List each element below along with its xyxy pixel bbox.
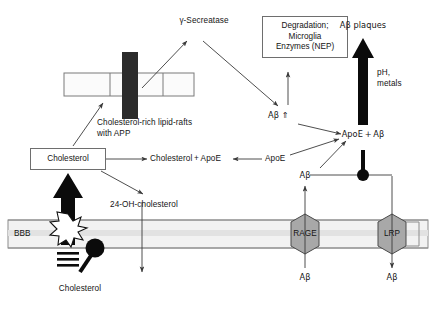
arrow-apoe-to-apoe-abeta [290,139,339,155]
oh-cholesterol-label: 24-OH-cholesterol [110,200,178,211]
cholesterol-bottom-label: Cholesterol [40,284,120,295]
cholesterol-box: Cholesterol [30,148,106,170]
app-bar [122,52,138,119]
degradation-line3: Enzymes (NEP) [276,42,334,53]
apoe-label: ApoE [265,154,285,165]
rage-label: RAGE [283,229,327,240]
abeta-below-lrp-label: Aβ [373,272,411,283]
ph-label: pH, [377,68,390,79]
metals-label: metals [377,79,402,90]
abeta-below-rage-label: Aβ [286,272,324,283]
arrow-membrane-abeta-to-apoe-abeta [320,141,346,168]
cholesterol-apoe-label: Cholesterol + ApoE [150,154,221,165]
abeta-above-rage-label: Aβ [286,170,324,181]
lrp-label: LRP [370,229,414,240]
bbb-label: BBB [14,229,31,240]
apoe-abeta-label: ApoE + Aβ [327,129,399,140]
degradation-line2: Microglia [289,32,322,43]
gamma-secretase-label: γ-Secreatase [160,16,248,27]
plaques-arrow [352,38,374,125]
degradation-line1: Degradation; [282,21,329,32]
pathway-diagram: γ-Secreatase Degradation; Microglia Enzy… [0,0,435,309]
raft-label-line1: Cholesterol-rich lipid-rafts [97,118,192,129]
abeta-plaques-label: Aβ plaques [328,20,398,31]
arrow-cholesterol-to-oh-cholesterol [101,171,143,194]
cholesterol-box-label: Cholesterol [47,154,88,165]
abeta-increase-label: Aβ ⇑ [268,110,289,121]
raft-label-line2: with APP [97,129,130,140]
